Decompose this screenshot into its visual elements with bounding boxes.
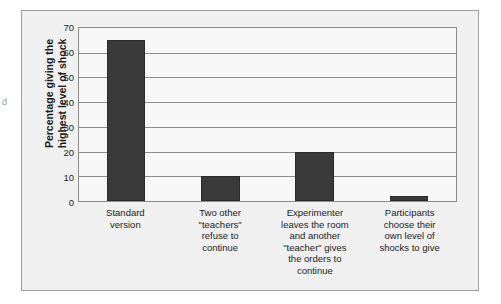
y-tick-label: 60	[63, 47, 74, 58]
y-tick-label: 10	[63, 172, 74, 183]
y-tick-label: 50	[63, 72, 74, 83]
bar-slot	[362, 28, 456, 201]
bars-layer	[79, 28, 456, 201]
y-axis-tick-labels: 010203040506070	[52, 27, 74, 202]
bar[interactable]	[390, 196, 429, 201]
x-category-label: Participants choose their own level of s…	[362, 207, 457, 276]
y-tick-label: 0	[69, 197, 74, 208]
x-category-label: Two other "teachers" refuse to continue	[173, 207, 268, 276]
chart-figure-frame: Percentage giving the highest level of s…	[21, 10, 479, 291]
plot-area	[78, 27, 457, 202]
plot-wrapper: 010203040506070	[78, 27, 457, 202]
x-category-label: Experimenter leaves the room and another…	[268, 207, 363, 276]
x-category-label: Standard version	[78, 207, 173, 276]
bar-slot	[268, 28, 362, 201]
x-axis-category-labels: Standard versionTwo other "teachers" ref…	[78, 207, 457, 276]
page-margin-artifact: d	[2, 96, 10, 108]
figure-page: d Percentage giving the highest level of…	[0, 0, 501, 304]
y-tick-label: 30	[63, 122, 74, 133]
bar[interactable]	[201, 176, 240, 201]
y-tick-label: 70	[63, 22, 74, 33]
y-tick-label: 20	[63, 147, 74, 158]
bar-slot	[79, 28, 173, 201]
bar[interactable]	[295, 152, 334, 201]
bar-slot	[173, 28, 267, 201]
y-tick-label: 40	[63, 97, 74, 108]
bar[interactable]	[107, 40, 146, 201]
